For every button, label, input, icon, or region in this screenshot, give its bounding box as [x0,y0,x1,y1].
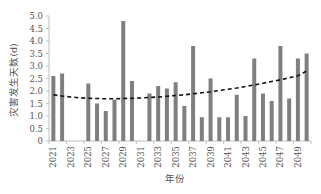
bar [278,46,282,141]
bar [51,76,55,141]
y-axis: 00.51.01.52.02.53.03.54.04.55.0 [29,11,49,146]
bar [95,104,99,142]
y-tick-label: 3.0 [29,61,43,71]
y-tick-label: 0.5 [29,124,43,134]
y-tick-label: 4.0 [29,36,43,46]
y-tick-label: 0 [38,136,43,146]
bar [209,79,213,142]
bar [200,117,204,141]
x-tick-label: 2031 [136,146,146,168]
x-tick-label: 2037 [188,146,198,168]
bar [130,81,134,141]
bar [86,84,90,142]
bar-chart: 00.51.01.52.02.53.03.54.04.55.0 20212023… [0,0,321,194]
x-tick-label: 2029 [118,146,128,168]
bar [174,82,178,141]
x-axis: 2021202320252027202920312033203520372039… [48,141,311,168]
x-tick-label: 2047 [275,146,285,168]
bar [121,21,125,141]
bar [147,94,151,142]
y-tick-label: 2.0 [29,86,43,96]
y-axis-title: 灾害发生天数(d) [8,43,19,116]
bar [270,101,274,141]
bar [261,94,265,142]
bar [305,54,309,142]
x-tick-label: 2039 [206,146,216,168]
bar-series [51,21,308,141]
x-tick-label: 2041 [223,146,233,168]
bar [182,106,186,141]
y-tick-label: 3.5 [29,49,43,59]
bar [113,100,117,141]
bar [252,59,256,142]
x-tick-label: 2043 [241,146,251,168]
bar [104,111,108,141]
trendline-path [53,71,306,99]
x-tick-label: 2045 [258,146,268,168]
y-tick-label: 5.0 [29,11,43,21]
y-tick-label: 1.5 [29,99,43,109]
x-tick-label: 2021 [48,146,58,168]
x-tick-label: 2033 [153,146,163,168]
y-tick-label: 2.5 [29,74,43,84]
x-tick-label: 2027 [101,146,111,168]
bar [226,117,230,141]
x-tick-label: 2035 [171,146,181,168]
x-tick-label: 2023 [66,146,76,168]
x-tick-label: 2049 [293,146,303,168]
y-tick-label: 1.0 [29,111,43,121]
bar [217,117,221,141]
trendline [53,71,306,99]
bar [156,86,160,141]
x-axis-title: 年份 [165,173,185,184]
x-tick-label: 2025 [83,146,93,168]
bar [235,95,239,141]
bar [244,116,248,141]
y-tick-label: 4.5 [29,24,43,34]
bar [287,99,291,142]
bar [296,59,300,142]
bar [60,74,64,142]
